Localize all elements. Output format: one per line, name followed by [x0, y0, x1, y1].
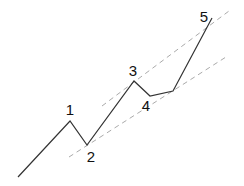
elliott-wave-diagram: 1 2 3 4 5 — [0, 0, 244, 186]
wave-label-4: 4 — [142, 97, 150, 114]
wave-label-2: 2 — [87, 148, 95, 165]
wave-label-1: 1 — [66, 101, 74, 118]
upper-channel-line — [102, 11, 229, 106]
wave-label-3: 3 — [129, 62, 137, 79]
wave-line — [18, 18, 212, 177]
wave-label-5: 5 — [200, 8, 208, 25]
